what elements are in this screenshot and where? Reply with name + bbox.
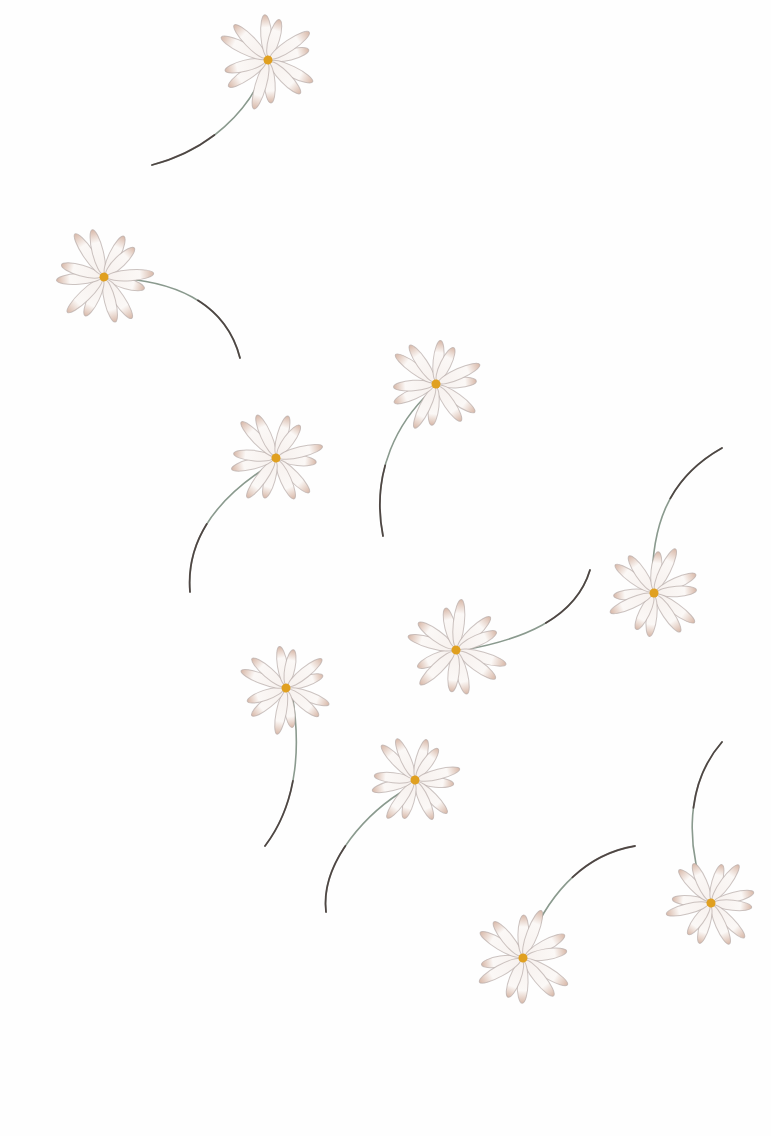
daisy-flower xyxy=(395,589,515,709)
flower-center xyxy=(650,589,659,598)
daisy-flower xyxy=(660,852,760,952)
stems-layer xyxy=(112,68,722,950)
daisy-flower xyxy=(234,636,340,742)
daisy-flower xyxy=(608,547,698,637)
flowers-layer xyxy=(45,7,761,1008)
stem xyxy=(152,68,265,165)
flower-center xyxy=(432,380,441,389)
daisy-illustration xyxy=(0,0,771,1136)
daisy-flower xyxy=(215,7,323,116)
stem xyxy=(152,68,265,165)
daisy-flower xyxy=(366,731,466,831)
daisy-flower xyxy=(225,407,329,512)
stem xyxy=(526,846,635,950)
daisy-flower xyxy=(392,340,482,430)
daisy-artwork xyxy=(0,0,771,1136)
stem xyxy=(526,846,635,950)
daisy-flower xyxy=(471,906,572,1008)
daisy-flower xyxy=(45,218,165,338)
